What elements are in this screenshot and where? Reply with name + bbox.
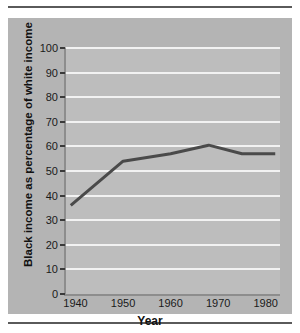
x-axis-title: Year [8, 314, 292, 328]
x-tick-label: 1970 [206, 298, 230, 309]
y-tick-label: 30 [46, 215, 58, 226]
y-tick-mark [60, 47, 65, 49]
y-tick-mark [60, 72, 65, 74]
y-tick-label: 50 [46, 166, 58, 177]
chart-card: 0102030405060708090100 19401950196019701… [8, 18, 292, 314]
chart-figure: 0102030405060708090100 19401950196019701… [0, 0, 300, 333]
y-tick-mark [60, 145, 65, 147]
y-tick-mark [60, 195, 65, 197]
y-tick-label: 70 [46, 116, 58, 127]
y-tick-label: 90 [46, 67, 58, 78]
y-tick-label: 100 [40, 43, 58, 54]
data-series-line [66, 48, 280, 294]
y-tick-label: 40 [46, 190, 58, 201]
y-tick-mark [60, 268, 65, 270]
y-tick-mark [60, 244, 65, 246]
y-tick-mark [60, 96, 65, 98]
y-tick-mark [60, 219, 65, 221]
x-tick-label: 1980 [253, 298, 277, 309]
y-tick-mark [60, 121, 65, 123]
x-tick-label: 1960 [158, 298, 182, 309]
series-polyline [71, 145, 275, 205]
y-tick-label: 60 [46, 141, 58, 152]
y-tick-label: 10 [46, 264, 58, 275]
y-tick-mark [60, 170, 65, 172]
y-tick-label: 20 [46, 239, 58, 250]
x-tick-label: 1940 [63, 298, 87, 309]
y-axis-title: Black income as percentage of white inco… [22, 47, 34, 267]
top-divider-rule [8, 6, 292, 8]
x-tick-label: 1950 [111, 298, 135, 309]
x-axis-line [64, 294, 280, 296]
y-tick-label: 80 [46, 92, 58, 103]
y-tick-label: 0 [52, 289, 58, 300]
y-tick-mark [60, 293, 65, 295]
